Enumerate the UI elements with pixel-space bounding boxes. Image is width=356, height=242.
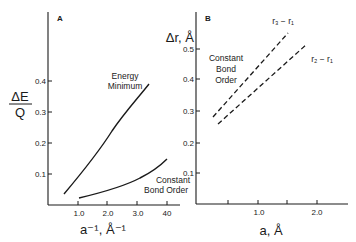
r3-minus-r1-label: r₃ − r₁: [272, 16, 294, 26]
energy-minimum-curve: [64, 84, 149, 194]
panel-a-ytick-label: 0.2: [35, 139, 47, 148]
panel-b-xtick-label: 2.0: [311, 208, 323, 217]
panel-b-ytick-label: 0.3: [183, 107, 195, 116]
panel-b-ytick-label: 0.4: [183, 75, 195, 84]
panel-a-x-ticks: [78, 201, 167, 205]
panel-a-x-axis-title: a⁻¹, Å⁻¹: [80, 222, 126, 237]
panel-a: 0.1 0.2 0.3 0.4 1.0 2.0 3.0 40 a⁻¹, Å⁻¹ …: [9, 12, 191, 237]
panel-b-y-axis-title: Δr, Å: [166, 30, 195, 45]
panel-b-letter: B: [205, 14, 211, 23]
panel-b-x-ticks: [228, 200, 317, 204]
energy-minimum-label: Energy: [112, 71, 140, 81]
panel-a-letter: A: [57, 14, 63, 23]
panel-a-y-ticks: [48, 81, 52, 174]
constant-bond-order-label-b: Bond: [216, 64, 236, 74]
panel-a-xtick-label: 1.0: [73, 209, 85, 218]
panel-b-ytick-label: 0.2: [183, 139, 195, 148]
panel-b-ytick-label: 0.5: [183, 45, 195, 54]
r2-minus-r1-label: r₂ − r₁: [311, 54, 333, 64]
energy-minimum-label: Minimum: [108, 81, 142, 91]
constant-bond-order-label-b: Order: [215, 75, 237, 85]
panel-a-xtick-label: 2.0: [102, 209, 114, 218]
panel-b-xtick-label: 1.0: [253, 208, 265, 217]
panel-a-y-axis-title-numerator: ΔE: [11, 89, 29, 104]
panel-b-y-ticks: [196, 49, 200, 173]
panel-a-xtick-label: 3.0: [132, 209, 144, 218]
panel-a-y-axis-title-denominator: Q: [15, 105, 25, 120]
panel-a-xtick-label: 40: [163, 209, 172, 218]
panel-a-ytick-label: 0.4: [35, 77, 47, 86]
constant-bond-order-label-b: Constant: [209, 53, 244, 63]
panel-b: 0.1 0.2 0.3 0.4 0.5 1.0 2.0 a, Å Δr, Å B…: [166, 12, 348, 238]
panel-b-x-axis-title: a, Å: [259, 223, 282, 238]
figure-canvas: 0.1 0.2 0.3 0.4 1.0 2.0 3.0 40 a⁻¹, Å⁻¹ …: [0, 0, 356, 242]
constant-bond-order-label-a: Bond Order: [144, 185, 188, 195]
panel-a-ytick-label: 0.3: [35, 108, 47, 117]
panel-a-ytick-label: 0.1: [35, 170, 47, 179]
panel-b-ytick-label: 0.1: [183, 169, 195, 178]
